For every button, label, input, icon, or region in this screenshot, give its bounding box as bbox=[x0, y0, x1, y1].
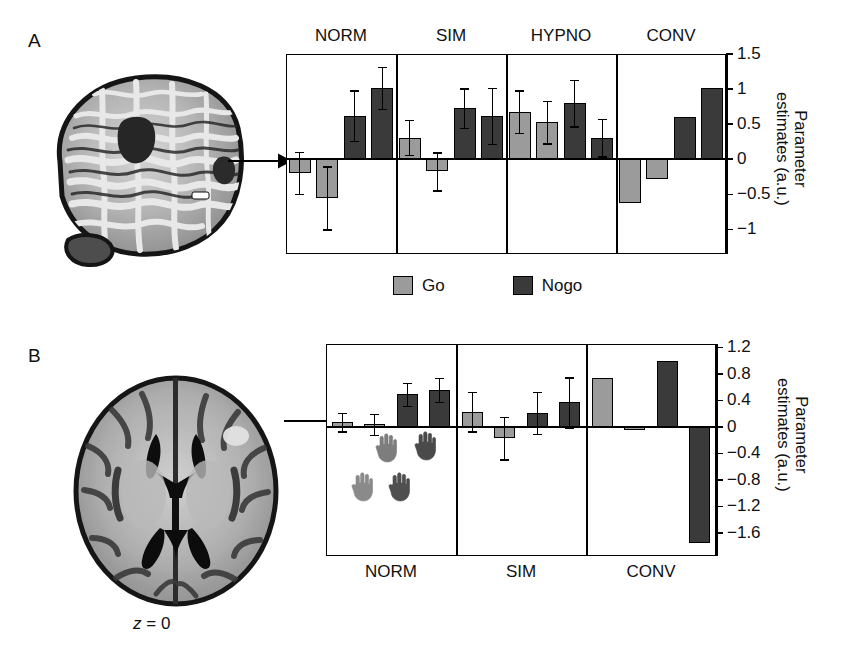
y-axis-tick-label: −0.8 bbox=[727, 471, 761, 488]
hand-pictogram-group bbox=[347, 429, 441, 527]
error-bar-cap-lower bbox=[598, 156, 607, 157]
group-divider bbox=[456, 344, 458, 556]
error-bar-cap-lower bbox=[403, 406, 412, 407]
error-bar-cap-upper bbox=[323, 166, 332, 167]
panel-a-barchart bbox=[286, 54, 726, 254]
group-label-norm: NORM bbox=[281, 27, 401, 44]
y-axis-tick bbox=[716, 479, 723, 481]
figure-root: A bbox=[0, 0, 852, 657]
error-bar-cap-lower bbox=[350, 141, 359, 142]
y-axis-tick bbox=[726, 53, 733, 55]
y-axis-tick bbox=[726, 229, 733, 231]
error-bar bbox=[437, 152, 438, 190]
error-bar bbox=[407, 383, 408, 406]
error-bar bbox=[504, 417, 505, 459]
error-bar bbox=[439, 378, 440, 402]
error-bar-cap-lower bbox=[338, 431, 347, 432]
y-axis-tick-label: −1.6 bbox=[727, 524, 761, 541]
bar-conv-go-0 bbox=[592, 378, 613, 427]
bar-conv-go-1 bbox=[624, 427, 645, 430]
y-axis-tick-label: −1 bbox=[737, 220, 756, 237]
axis-spine bbox=[726, 54, 728, 254]
panel-letter-b: B bbox=[28, 345, 41, 367]
y-axis-title: Parameterestimates (a.u.) bbox=[773, 92, 810, 206]
y-axis-tick bbox=[716, 400, 723, 402]
legend-label-nogo: Nogo bbox=[542, 277, 583, 294]
error-bar-cap-upper bbox=[405, 120, 414, 121]
error-bar bbox=[472, 392, 473, 432]
bar-conv-nogo-2 bbox=[657, 361, 678, 427]
group-label-conv: CONV bbox=[611, 27, 731, 44]
bar-conv-go-1 bbox=[646, 159, 668, 179]
y-axis-tick-label: 1.2 bbox=[727, 338, 751, 355]
bar-conv-go-0 bbox=[619, 159, 641, 203]
legend-swatch-nogo bbox=[513, 276, 533, 295]
bar-conv-nogo-3 bbox=[701, 88, 723, 160]
slice-value: = 0 bbox=[146, 614, 170, 633]
error-bar bbox=[464, 88, 465, 127]
panel-b-barchart bbox=[326, 344, 716, 556]
y-axis-title: Parameterestimates (a.u.) bbox=[774, 378, 811, 492]
error-bar-cap-lower bbox=[323, 229, 332, 230]
group-label-hypno: HYPNO bbox=[501, 27, 621, 44]
error-bar-cap-upper bbox=[295, 152, 304, 153]
y-axis-tick bbox=[716, 453, 723, 455]
error-bar bbox=[569, 377, 570, 427]
error-bar-cap-lower bbox=[435, 402, 444, 403]
panel-letter-a: A bbox=[28, 30, 41, 52]
legend-label-go: Go bbox=[422, 277, 445, 294]
y-axis-tick bbox=[726, 194, 733, 196]
error-bar-cap-upper bbox=[515, 90, 524, 91]
error-bar-cap-upper bbox=[500, 417, 509, 418]
error-bar-cap-lower bbox=[295, 194, 304, 195]
y-axis-tick-label: 0.5 bbox=[737, 115, 761, 132]
group-label-conv: CONV bbox=[591, 563, 711, 580]
y-axis-tick-label: −1.2 bbox=[727, 497, 761, 514]
hand-icon bbox=[414, 429, 436, 461]
error-bar-cap-upper bbox=[338, 413, 347, 414]
sagittal-brain-mri bbox=[32, 50, 260, 270]
error-bar-cap-lower bbox=[433, 190, 442, 191]
error-bar bbox=[547, 101, 548, 143]
legend-item-go: Go bbox=[393, 276, 445, 295]
error-bar bbox=[382, 67, 383, 109]
legend-swatch-go bbox=[393, 276, 413, 295]
error-bar-cap-upper bbox=[460, 88, 469, 89]
slice-coordinate-label: z = 0 bbox=[133, 614, 170, 634]
error-bar bbox=[537, 392, 538, 434]
error-bar bbox=[574, 80, 575, 126]
y-axis-title-line1: Parameter bbox=[793, 396, 811, 473]
error-bar bbox=[327, 166, 328, 229]
error-bar-cap-upper bbox=[433, 152, 442, 153]
y-axis-tick bbox=[716, 506, 723, 508]
y-axis-tick bbox=[716, 347, 723, 349]
hand-icon bbox=[375, 431, 397, 463]
y-axis-title-line2: estimates (a.u.) bbox=[775, 378, 793, 492]
error-bar-cap-upper bbox=[378, 67, 387, 68]
y-axis-tick bbox=[726, 123, 733, 125]
legend: GoNogo bbox=[393, 276, 582, 295]
legend-item-nogo: Nogo bbox=[513, 276, 583, 295]
group-divider bbox=[586, 344, 588, 556]
y-axis-tick-label: 1.5 bbox=[737, 45, 761, 62]
error-bar-cap-lower bbox=[500, 459, 509, 460]
axial-brain-mri bbox=[52, 372, 300, 610]
group-label-norm: NORM bbox=[331, 563, 451, 580]
error-bar-cap-lower bbox=[488, 144, 497, 145]
error-bar-cap-upper bbox=[570, 80, 579, 81]
y-axis-tick bbox=[726, 88, 733, 90]
y-axis-tick bbox=[716, 426, 723, 428]
error-bar-cap-lower bbox=[570, 126, 579, 127]
error-bar-cap-upper bbox=[350, 90, 359, 91]
axis-spine bbox=[716, 344, 718, 556]
y-axis-tick-label: −0.4 bbox=[727, 444, 761, 461]
error-bar-cap-upper bbox=[598, 119, 607, 120]
bar-conv-nogo-3 bbox=[689, 427, 710, 543]
y-axis-title-line2: estimates (a.u.) bbox=[774, 92, 792, 206]
error-bar bbox=[354, 90, 355, 141]
y-axis-tick bbox=[716, 373, 723, 375]
error-bar-cap-lower bbox=[515, 133, 524, 134]
error-bar-cap-lower bbox=[468, 431, 477, 432]
error-bar-cap-lower bbox=[543, 143, 552, 144]
group-label-sim: SIM bbox=[391, 27, 511, 44]
